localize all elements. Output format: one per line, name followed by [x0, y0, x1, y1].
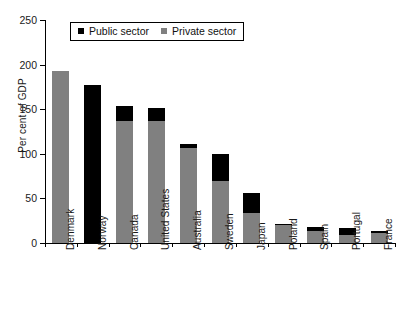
x-axis-label-denmark: Denmark [65, 209, 76, 250]
legend-label-public: Public sector [89, 25, 149, 37]
x-axis-label-canada: Canada [129, 214, 140, 250]
plot-area: 050100150200250 [45, 20, 395, 243]
x-tick-mark [395, 243, 396, 247]
y-tick-mark [40, 20, 45, 21]
x-axis-label-poland: Poland [288, 218, 299, 250]
bar-segment-public [212, 154, 229, 181]
legend-label-private: Private sector [172, 25, 236, 37]
x-axis-label-united-states: United States [160, 189, 171, 250]
legend-item-private-sector: Private sector [161, 25, 236, 37]
y-tick-mark [40, 65, 45, 66]
x-axis-label-australia: Australia [192, 210, 203, 250]
x-axis-label-france: France [383, 218, 394, 250]
legend-swatch-icon-private [161, 28, 167, 34]
x-tick-mark [204, 243, 205, 247]
x-tick-mark [172, 243, 173, 247]
x-tick-mark [268, 243, 269, 247]
y-tick-label: 0 [31, 237, 37, 249]
chart-legend: Public sector Private sector [70, 22, 244, 41]
x-tick-mark [331, 243, 332, 247]
y-axis-line [45, 20, 46, 243]
y-tick-label: 250 [19, 14, 37, 26]
x-axis-label-norway: Norway [97, 216, 108, 251]
x-tick-mark [300, 243, 301, 247]
y-tick-mark [40, 198, 45, 199]
x-tick-mark [236, 243, 237, 247]
legend-item-public-sector: Public sector [78, 25, 149, 37]
x-tick-mark [109, 243, 110, 247]
x-axis-label-japan: Japan [256, 222, 267, 250]
x-tick-mark [140, 243, 141, 247]
x-axis-label-sweden: Sweden [224, 213, 235, 250]
x-tick-mark [45, 243, 46, 247]
y-tick-label: 150 [19, 103, 37, 115]
bar-segment-public [148, 108, 165, 120]
y-tick-label: 200 [19, 59, 37, 71]
y-tick-mark [40, 154, 45, 155]
y-tick-mark [40, 109, 45, 110]
bar-segment-public [243, 193, 260, 213]
x-tick-mark [363, 243, 364, 247]
y-tick-label: 50 [25, 192, 37, 204]
bar-chart: Per cent of GDP 050100150200250 DenmarkN… [0, 0, 405, 322]
x-axis-label-portugal: Portugal [351, 212, 362, 250]
x-tick-mark [77, 243, 78, 247]
legend-swatch-icon-public [78, 28, 84, 34]
bar-segment-public [116, 106, 133, 121]
x-axis-label-spain: Spain [319, 224, 330, 250]
y-tick-label: 100 [19, 148, 37, 160]
